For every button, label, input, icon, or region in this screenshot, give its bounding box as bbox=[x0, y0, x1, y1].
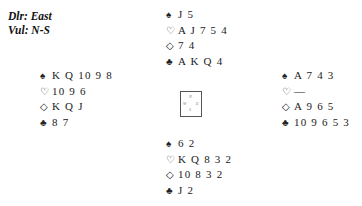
compass-north: N bbox=[189, 94, 192, 99]
heart-icon: ♡ bbox=[282, 84, 294, 100]
west-diamonds: K Q J bbox=[52, 100, 84, 112]
east-clubs: 10 9 6 5 3 bbox=[294, 116, 350, 128]
heart-icon: ♡ bbox=[166, 23, 178, 39]
north-clubs: A K Q 4 bbox=[178, 55, 223, 67]
heart-icon: ♡ bbox=[166, 152, 178, 168]
heart-icon: ♡ bbox=[40, 84, 52, 100]
dealer-label: Dlr: East bbox=[8, 9, 52, 23]
north-hearts: A J 7 5 4 bbox=[178, 24, 228, 36]
west-clubs: 8 7 bbox=[52, 116, 69, 128]
diamond-icon: ◇ bbox=[40, 99, 52, 115]
hand-west: ♠K Q 10 9 8 ♡10 9 6 ◇K Q J ♣8 7 bbox=[40, 68, 113, 130]
vulnerability-label: Vul: N-S bbox=[8, 23, 52, 37]
compass-east: E bbox=[196, 101, 198, 106]
south-hearts: K Q 8 3 2 bbox=[178, 153, 232, 165]
spade-icon: ♠ bbox=[166, 7, 178, 23]
spade-icon: ♠ bbox=[282, 68, 294, 84]
north-diamonds: 7 4 bbox=[178, 39, 195, 51]
south-clubs: J 2 bbox=[178, 184, 194, 196]
south-spades: 6 2 bbox=[178, 137, 195, 149]
club-icon: ♣ bbox=[166, 54, 178, 70]
deal-info: Dlr: East Vul: N-S bbox=[8, 9, 52, 37]
diamond-icon: ◇ bbox=[282, 99, 294, 115]
hand-south: ♠6 2 ♡K Q 8 3 2 ◇10 8 3 2 ♣J 2 bbox=[166, 136, 232, 198]
west-hearts: 10 9 6 bbox=[52, 85, 87, 97]
compass-south: S bbox=[189, 107, 191, 112]
club-icon: ♣ bbox=[282, 115, 294, 131]
diamond-icon: ◇ bbox=[166, 167, 178, 183]
north-spades: J 5 bbox=[178, 8, 194, 20]
east-spades: A 7 4 3 bbox=[294, 69, 335, 81]
compass-box: N W E S bbox=[180, 91, 202, 117]
compass-west: W bbox=[183, 101, 186, 106]
south-diamonds: 10 8 3 2 bbox=[178, 168, 223, 180]
east-hearts: — bbox=[294, 85, 306, 97]
west-spades: K Q 10 9 8 bbox=[52, 69, 113, 81]
spade-icon: ♠ bbox=[166, 136, 178, 152]
diamond-icon: ◇ bbox=[166, 38, 178, 54]
club-icon: ♣ bbox=[40, 115, 52, 131]
hand-north: ♠J 5 ♡A J 7 5 4 ◇7 4 ♣A K Q 4 bbox=[166, 7, 228, 69]
hand-east: ♠A 7 4 3 ♡— ◇A 9 6 5 ♣10 9 6 5 3 bbox=[282, 68, 350, 130]
club-icon: ♣ bbox=[166, 183, 178, 199]
east-diamonds: A 9 6 5 bbox=[294, 100, 335, 112]
spade-icon: ♠ bbox=[40, 68, 52, 84]
